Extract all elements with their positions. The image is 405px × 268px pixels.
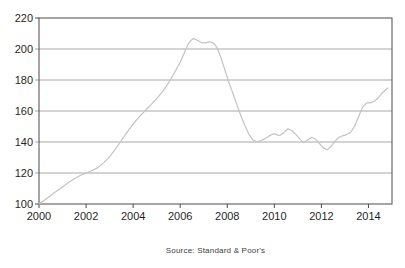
y-tick-label: 120 [15,167,33,179]
x-tick-label: 2010 [262,210,286,222]
y-tick-label: 180 [15,74,33,86]
x-tick-label: 2014 [356,210,380,222]
x-tick-label: 2006 [168,210,192,222]
x-tick-label: 2000 [27,210,51,222]
x-tick-label: 2012 [309,210,333,222]
x-tick-label: 2002 [74,210,98,222]
y-tick-label: 220 [15,12,33,24]
x-tick-label: 2004 [121,210,145,222]
chart-figure: 1001201401601802002202000200220042006200… [0,0,405,268]
x-tick-label: 2008 [215,210,239,222]
home-price-index-line-chart: 1001201401601802002202000200220042006200… [0,0,405,268]
y-tick-label: 160 [15,105,33,117]
price-index-line [39,39,388,204]
source-note: Source: Standard & Poor's [39,246,392,255]
y-tick-label: 200 [15,43,33,55]
y-tick-label: 140 [15,136,33,148]
y-tick-label: 100 [15,198,33,210]
